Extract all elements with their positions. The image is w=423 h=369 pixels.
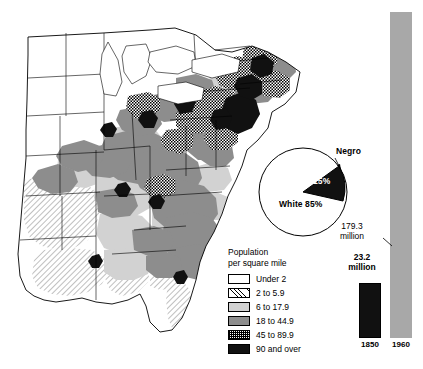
legend-label-under-2: Under 2 xyxy=(256,274,286,284)
bar-1960-unit: million xyxy=(340,231,364,241)
pie-label-white: White 85% xyxy=(279,199,322,209)
bar-1850-number: 23.2 xyxy=(354,252,371,262)
bar-1960-value: 179.3 million xyxy=(322,222,382,241)
map-legend: Population per square mile Under 2 2 to … xyxy=(228,247,328,356)
bar-1960-number: 179.3 xyxy=(341,221,362,231)
legend-item-18-to-44-9: 18 to 44.9 xyxy=(228,314,328,327)
legend-item-2-to-5-9: 2 to 5.9 xyxy=(228,286,328,299)
pie-label-negro-percent: 15% xyxy=(313,176,330,186)
bars-leader-svg xyxy=(340,0,423,355)
legend-swatch-18-to-44-9 xyxy=(228,316,250,326)
bar-1850-value: 23.2 million xyxy=(340,253,384,272)
bar-year-1960: 1960 xyxy=(385,340,417,349)
legend-swatch-6-to-17-9 xyxy=(228,302,250,312)
legend-swatch-2-to-5-9 xyxy=(228,288,250,298)
legend-item-6-to-17-9: 6 to 17.9 xyxy=(228,300,328,313)
legend-item-under-2: Under 2 xyxy=(228,272,328,285)
legend-item-45-to-89-9: 45 to 89.9 xyxy=(228,328,328,341)
legend-swatch-45-to-89-9 xyxy=(228,330,250,340)
bar-1850-unit: million xyxy=(348,262,375,272)
legend-title-line1: Population xyxy=(228,247,268,257)
legend-swatch-under-2 xyxy=(228,274,250,284)
legend-label-18-to-44-9: 18 to 44.9 xyxy=(256,316,294,326)
figure-canvas: White 85% 15% Negro 179.3 million 23.2 m… xyxy=(0,0,423,369)
legend-label-6-to-17-9: 6 to 17.9 xyxy=(256,302,289,312)
population-growth-bar-chart: 179.3 million 23.2 million 1850 1960 xyxy=(340,0,423,355)
legend-label-2-to-5-9: 2 to 5.9 xyxy=(256,288,284,298)
legend-title-line2: per square mile xyxy=(228,258,287,268)
legend-label-45-to-89-9: 45 to 89.9 xyxy=(256,330,294,340)
legend-swatch-90-and-over xyxy=(228,344,250,354)
bar-year-1850: 1850 xyxy=(354,340,386,349)
bar-1960-leader-line xyxy=(383,238,392,246)
legend-title: Population per square mile xyxy=(228,247,328,268)
legend-item-90-and-over: 90 and over xyxy=(228,342,328,355)
legend-label-90-and-over: 90 and over xyxy=(256,344,301,354)
